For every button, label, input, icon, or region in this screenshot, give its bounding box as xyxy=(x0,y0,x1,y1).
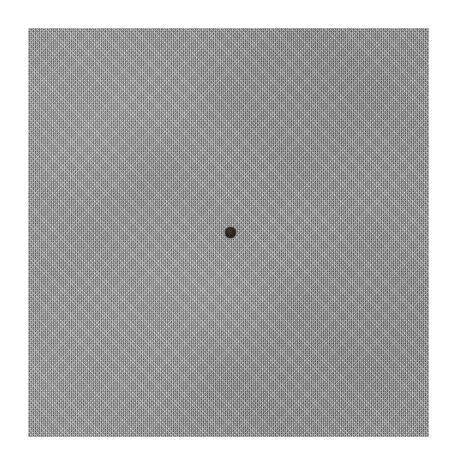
center-dot xyxy=(225,227,236,238)
image-canvas xyxy=(0,0,452,464)
